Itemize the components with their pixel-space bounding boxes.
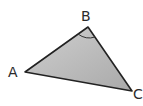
vertex-label-b: B bbox=[81, 8, 91, 24]
vertex-label-c: C bbox=[133, 86, 143, 102]
triangle-abc bbox=[25, 27, 132, 91]
triangle-diagram: A B C bbox=[0, 0, 143, 106]
vertex-label-a: A bbox=[8, 64, 18, 80]
